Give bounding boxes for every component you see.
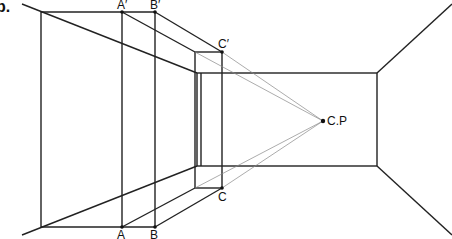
a-receding — [122, 188, 195, 227]
label-c: C — [218, 190, 227, 204]
point-cp — [321, 119, 325, 123]
label-a: A — [117, 228, 125, 239]
a-prime-receding — [122, 12, 195, 52]
projector-3 — [195, 121, 323, 188]
projector-2 — [222, 52, 323, 121]
ceiling-right-edge — [377, 4, 452, 73]
floor-right-edge — [377, 166, 452, 235]
label-b-prime: B′ — [150, 0, 161, 12]
label-c-prime: C′ — [218, 37, 230, 51]
projector-4 — [222, 121, 323, 188]
label-cp: C.P — [327, 114, 347, 128]
projector-1 — [195, 52, 323, 121]
b-prime-receding — [155, 12, 222, 52]
b-receding — [155, 188, 222, 227]
label-b: B — [150, 228, 158, 239]
figure-marker: b. — [0, 0, 10, 15]
label-a-prime: A′ — [117, 0, 128, 12]
back-wall — [197, 73, 377, 166]
perspective-diagram: b. A′ B′ C′ A B C C.P — [0, 0, 452, 239]
